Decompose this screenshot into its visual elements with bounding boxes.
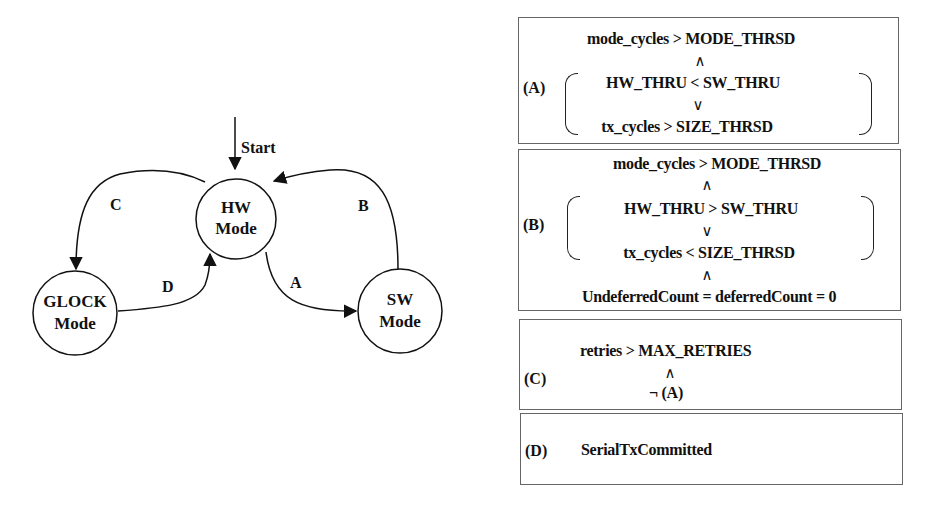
svg-text:D: D	[162, 278, 174, 295]
state-sw-mode: SW Mode	[358, 269, 442, 353]
svg-text:B: B	[358, 197, 369, 214]
condition-a-line3: tx_cycles > SIZE_THRSD	[601, 118, 772, 136]
state-hw-mode: HW Mode	[196, 179, 276, 259]
svg-text:HW: HW	[221, 198, 251, 217]
left-paren	[565, 73, 578, 135]
condition-c-line2: ¬ (A)	[649, 384, 683, 402]
condition-box-b: (B) mode_cycles > MODE_THRSD ∧ HW_THRU >…	[518, 149, 901, 311]
and-operator: ∧	[702, 266, 713, 284]
left-paren	[567, 196, 580, 260]
condition-box-d: (D) SerialTxCommitted	[520, 413, 903, 485]
right-paren	[859, 73, 872, 135]
condition-b-line4: UndeferredCount = deferredCount = 0	[582, 288, 836, 306]
and-operator: ∧	[665, 364, 676, 382]
state-diagram: Start HW Mode SW Mode GLOCK Mode A B C D	[0, 0, 470, 513]
or-operator: ∨	[693, 96, 704, 114]
condition-b-line1: mode_cycles > MODE_THRSD	[613, 155, 821, 173]
transition-b: B	[274, 170, 398, 269]
start-arrow: Start	[235, 117, 276, 169]
condition-label-a: (A)	[523, 79, 545, 97]
state-glock-mode: GLOCK Mode	[33, 271, 117, 355]
transition-d: D	[118, 254, 210, 311]
condition-label-c: (C)	[524, 370, 546, 388]
right-paren	[861, 196, 874, 260]
condition-a-line2: HW_THRU < SW_THRU	[606, 74, 780, 92]
condition-label-b: (B)	[523, 216, 544, 234]
condition-label-d: (D)	[525, 442, 547, 460]
transition-c: C	[76, 171, 205, 269]
and-operator: ∧	[695, 52, 706, 70]
svg-text:Mode: Mode	[379, 312, 421, 331]
condition-box-c: (C) retries > MAX_RETRIES ∧ ¬ (A)	[519, 319, 902, 410]
svg-text:SW: SW	[387, 290, 413, 309]
svg-text:Mode: Mode	[54, 314, 96, 333]
svg-text:C: C	[110, 196, 122, 213]
svg-text:GLOCK: GLOCK	[43, 292, 107, 311]
or-operator: ∨	[702, 222, 713, 240]
and-operator: ∧	[702, 176, 713, 194]
condition-d-line1: SerialTxCommitted	[581, 441, 712, 459]
condition-c-line1: retries > MAX_RETRIES	[580, 342, 751, 360]
condition-b-line2: HW_THRU > SW_THRU	[624, 200, 798, 218]
condition-box-a: (A) mode_cycles > MODE_THRSD ∧ HW_THRU <…	[518, 17, 899, 144]
svg-text:Mode: Mode	[215, 219, 257, 238]
transition-a: A	[266, 252, 356, 311]
svg-text:A: A	[290, 274, 302, 291]
condition-b-line3: tx_cycles < SIZE_THRSD	[623, 244, 794, 262]
start-label: Start	[241, 139, 276, 156]
condition-a-line1: mode_cycles > MODE_THRSD	[587, 30, 795, 48]
